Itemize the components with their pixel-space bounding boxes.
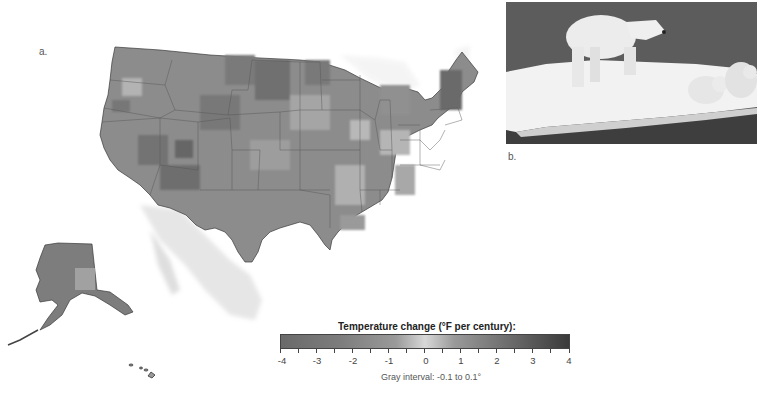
legend-title: Temperature change (°F per century): (338, 321, 516, 332)
tick-label: -3 (313, 355, 321, 366)
tick-label: -4 (278, 355, 286, 366)
legend-colorbar (280, 334, 570, 349)
tick-label: 1 (458, 355, 463, 366)
hawaii (129, 364, 155, 378)
tick-label: 3 (530, 355, 535, 366)
tick-label: -1 (385, 355, 393, 366)
tick-label: 0 (423, 355, 428, 366)
tick-label: 4 (566, 355, 571, 366)
alaska (8, 243, 133, 345)
legend-note: Gray interval: -0.1 to 0.1° (381, 372, 481, 382)
tick-label: -2 (349, 355, 357, 366)
polar-bear-photo (506, 2, 757, 144)
tick-label: 2 (494, 355, 499, 366)
